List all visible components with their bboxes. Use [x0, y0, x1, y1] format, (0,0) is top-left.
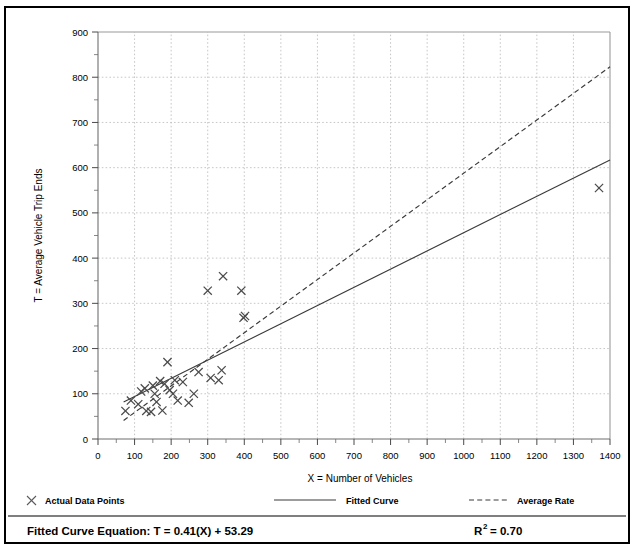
x-tick-label: 400 — [236, 450, 252, 461]
data-point-x-marker — [121, 407, 129, 415]
legend-label-average-rate: Average Rate — [517, 496, 574, 506]
x-tick-label: 1400 — [599, 450, 620, 461]
data-point-x-marker — [218, 366, 226, 374]
y-tick-label: 500 — [72, 207, 88, 218]
equation-row: Fitted Curve Equation: T = 0.41(X) + 53.… — [27, 522, 522, 537]
chart-legend: Actual Data PointsFitted CurveAverage Ra… — [27, 496, 574, 506]
chart-figure-frame: 0100200300400500600700800900010020030040… — [4, 6, 630, 544]
axis-titles: X = Number of VehiclesT = Average Vehicl… — [33, 169, 412, 484]
x-tick-label: 200 — [163, 450, 179, 461]
x-tick-label: 1000 — [453, 450, 474, 461]
x-axis: 0100200300400500600700800900100011001200… — [95, 439, 620, 461]
y-tick-label: 600 — [72, 162, 88, 173]
chart-plot-wrapper: 0100200300400500600700800900010020030040… — [6, 8, 628, 542]
y-tick-label: 700 — [72, 117, 88, 128]
x-tick-label: 1100 — [490, 450, 510, 461]
x-tick-label: 0 — [95, 450, 100, 461]
data-point-x-marker — [169, 390, 177, 398]
y-tick-label: 400 — [72, 253, 88, 264]
data-point-x-marker — [158, 406, 166, 414]
y-axis: 0100200300400500600700800900 — [72, 27, 98, 445]
y-tick-label: 200 — [72, 343, 88, 354]
y-tick-label: 100 — [72, 388, 88, 399]
data-point-x-marker — [219, 272, 227, 280]
fitted-curve-equation-label: Fitted Curve Equation: T = 0.41(X) + 53.… — [27, 525, 253, 537]
x-axis-title: X = Number of Vehicles — [308, 473, 413, 484]
r-squared-base: R — [474, 525, 483, 537]
x-tick-label: 700 — [346, 450, 362, 461]
data-point-x-marker — [190, 390, 198, 398]
series-actual-data-points — [121, 184, 603, 416]
data-point-x-marker — [215, 376, 223, 384]
data-point-x-marker — [595, 184, 603, 192]
r-squared-exponent: 2 — [483, 522, 488, 531]
legend-label-fitted-curve: Fitted Curve — [346, 496, 399, 506]
x-tick-label: 300 — [200, 450, 216, 461]
legend-item-fitted-curve[interactable]: Fitted Curve — [274, 496, 399, 506]
data-point-x-marker — [174, 396, 182, 404]
legend-label-actual-data-points: Actual Data Points — [45, 496, 125, 506]
data-point-x-marker — [147, 408, 155, 416]
data-point-x-marker — [163, 358, 171, 366]
y-tick-label: 900 — [72, 27, 88, 38]
data-point-x-marker — [152, 398, 160, 406]
data-point-x-marker — [185, 399, 193, 407]
data-point-x-marker — [179, 378, 187, 386]
x-tick-label: 500 — [273, 450, 289, 461]
y-axis-title: T = Average Vehicle Trip Ends — [33, 169, 44, 303]
data-point-x-marker — [171, 376, 179, 384]
legend-item-average-rate[interactable]: Average Rate — [469, 496, 574, 506]
x-tick-label: 800 — [383, 450, 399, 461]
x-tick-label: 1300 — [563, 450, 584, 461]
legend-item-actual-data-points[interactable]: Actual Data Points — [27, 496, 125, 506]
y-tick-label: 300 — [72, 298, 88, 309]
y-tick-label: 0 — [83, 434, 88, 445]
x-tick-label: 600 — [309, 450, 325, 461]
data-point-x-marker — [194, 368, 202, 376]
y-tick-label: 800 — [72, 72, 88, 83]
x-tick-label: 900 — [419, 450, 435, 461]
x-tick-label: 1200 — [526, 450, 547, 461]
gridlines — [98, 32, 610, 439]
r-squared-value: = 0.70 — [490, 525, 522, 537]
scatter-chart: 0100200300400500600700800900010020030040… — [6, 8, 628, 542]
x-tick-label: 100 — [127, 450, 143, 461]
